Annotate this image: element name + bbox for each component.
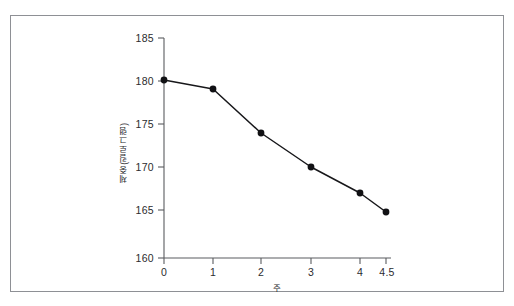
y-axis-title-label: 체중(킬로그램): [120, 123, 129, 183]
data-point-week-2: [258, 130, 265, 137]
y-tick-label-180: 180: [136, 75, 154, 87]
y-tick-label-165: 165: [136, 204, 154, 216]
y-tick-label-170: 170: [136, 161, 154, 173]
y-tick-label-175: 175: [136, 118, 154, 130]
data-point-week-1: [210, 86, 217, 93]
x-tick-label-2: 2: [258, 266, 264, 278]
weight-line-chart: 185 180 175 170 165 160 0 1 2 3 4 4.5 주: [0, 0, 514, 306]
y-axis-title: 체중(킬로그램): [113, 112, 135, 194]
x-tick-label-4: 4: [357, 266, 363, 278]
y-tick-label-185: 185: [136, 32, 154, 44]
weight-series-line: [164, 80, 386, 212]
x-tick-label-1: 1: [210, 266, 216, 278]
y-tick-label-160: 160: [136, 252, 154, 264]
x-tick-label-0: 0: [161, 266, 167, 278]
x-tick-label-3: 3: [308, 266, 314, 278]
data-point-week-3: [308, 164, 315, 171]
figure-root: 185 180 175 170 165 160 0 1 2 3 4 4.5 주 …: [0, 0, 514, 306]
x-tick-label-4-5: 4.5: [379, 266, 395, 278]
data-point-week-0: [161, 77, 168, 84]
data-point-week-4-5: [383, 209, 390, 216]
data-point-week-4: [357, 190, 364, 197]
x-axis-title: 주: [273, 283, 281, 293]
